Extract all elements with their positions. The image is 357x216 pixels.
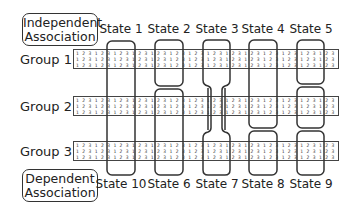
state-2-outline (155, 40, 183, 86)
state-1-10-outline (107, 41, 135, 175)
state-5-outline (297, 40, 324, 84)
state-4-outline (249, 40, 277, 128)
state-6-outline (155, 89, 183, 175)
state-outlines (0, 0, 357, 216)
state-9-outline (297, 131, 324, 175)
state-8-outline (249, 131, 277, 175)
state-group2-outline (297, 87, 324, 128)
state-3-7-outline (203, 40, 230, 175)
